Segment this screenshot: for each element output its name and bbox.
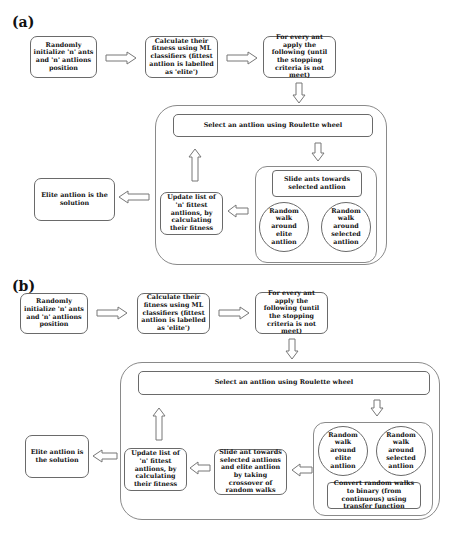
b-fitness-box: Calculate their fitness using ML classif… — [137, 293, 210, 334]
a-walk-elite-circle: Random walk around elite antlion — [259, 202, 309, 252]
b-slide-box: Slide ant towards selected antlions and … — [214, 449, 287, 495]
b-arrow-right-1 — [96, 306, 128, 320]
a-slide-box: Slide ants towards selected antlion — [272, 170, 362, 197]
b-arrow-down-1 — [285, 338, 299, 360]
b-update-box: Update list of 'n' fittest antlions, by … — [124, 448, 187, 491]
a-solution-box: Elite antlion is the solution — [34, 178, 115, 221]
b-loop-box: For every ant apply the following (until… — [255, 292, 328, 334]
panel-a-label: (a) — [12, 14, 34, 30]
a-select-box: Select an antlion using Roulette wheel — [173, 114, 373, 137]
a-arrow-down-1 — [292, 82, 306, 104]
a-walk-selected-circle: Random walk around selected antlion — [321, 202, 371, 252]
b-convert-box: Convert random walks to binary (from con… — [327, 482, 421, 509]
b-arrow-left-3 — [92, 449, 118, 463]
b-arrow-left-2 — [189, 461, 211, 475]
b-walk-selected-circle: Random walk around selected antlion — [376, 426, 426, 476]
a-arrow-left-1 — [227, 204, 249, 218]
a-init-box: Randomly initialize 'n' ants and 'n' ant… — [30, 36, 97, 78]
a-arrow-right-2 — [226, 51, 258, 65]
b-walk-elite-circle: Random walk around elite antlion — [318, 426, 368, 476]
a-update-box: Update list of 'n' fittest antlions, by … — [160, 192, 223, 235]
a-arrow-up-1 — [188, 148, 202, 182]
panel-b-label: (b) — [12, 278, 35, 294]
b-arrow-up-1 — [152, 407, 166, 441]
b-arrow-down-2 — [370, 399, 384, 417]
b-arrow-right-2 — [218, 306, 250, 320]
b-init-box: Randomly initialize 'n' ants and 'n' ant… — [20, 293, 88, 334]
a-arrow-right-1 — [105, 51, 137, 65]
a-arrow-down-2 — [311, 142, 325, 162]
b-select-box: Select an antlion using Roulette wheel — [138, 371, 430, 395]
a-loop-box: For every ant apply the following (until… — [263, 36, 336, 78]
b-arrow-left-1 — [291, 463, 313, 477]
a-fitness-box: Calculate their fitness using ML classif… — [145, 36, 218, 78]
b-solution-box: Elite antlion is the solution — [25, 435, 89, 478]
a-arrow-left-2 — [118, 190, 150, 204]
